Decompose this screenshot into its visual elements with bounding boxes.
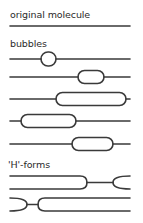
h-form-1 — [10, 176, 130, 189]
bubble-row-1 — [10, 52, 130, 66]
bubble-5 — [72, 138, 113, 151]
bubble-3 — [56, 93, 126, 106]
bubble-4 — [21, 115, 76, 128]
h-form-2 — [10, 198, 130, 211]
bubble-2 — [78, 71, 104, 84]
bubble-row-3 — [10, 93, 130, 106]
bubble-row-5 — [10, 138, 130, 151]
bubble-row-2 — [10, 71, 130, 84]
molecule-diagram — [0, 0, 143, 223]
bubble-row-4 — [10, 115, 130, 128]
bubble-1 — [41, 52, 56, 66]
